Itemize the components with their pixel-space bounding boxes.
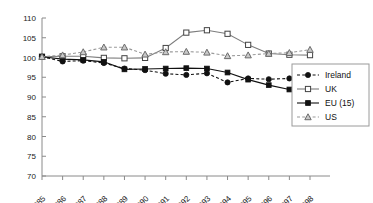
data-point-marker <box>163 66 168 71</box>
data-point-marker <box>204 28 209 33</box>
data-point-marker <box>225 80 230 85</box>
data-point-marker <box>305 72 310 77</box>
data-point-marker <box>225 31 230 36</box>
y-tick-label: 70 <box>27 172 36 181</box>
x-tick-label: 1994 <box>214 194 233 203</box>
y-tick-label: 80 <box>27 133 36 142</box>
y-axis-tick-labels: 707580859095100105110 <box>23 14 37 181</box>
x-tick-label: 1998 <box>296 194 315 203</box>
data-point-marker <box>287 87 292 92</box>
data-point-marker <box>225 70 230 75</box>
x-tick-label: 1997 <box>276 194 295 203</box>
data-point-marker <box>184 30 189 35</box>
y-tick-label: 110 <box>23 14 36 23</box>
data-point-marker <box>101 59 106 64</box>
legend-item-label: Ireland <box>325 70 351 80</box>
y-tick-label: 105 <box>23 34 37 43</box>
data-point-marker <box>246 77 251 82</box>
data-point-marker <box>122 67 127 72</box>
data-point-marker <box>183 48 189 54</box>
x-tick-label: 1988 <box>90 194 109 203</box>
x-tick-label: 1993 <box>193 194 212 203</box>
y-tick-label: 100 <box>23 54 37 63</box>
data-point-marker <box>205 66 210 71</box>
data-point-marker <box>81 57 86 62</box>
data-point-marker <box>246 42 251 47</box>
data-point-marker <box>266 77 271 82</box>
data-series-layer <box>39 28 313 97</box>
y-tick-label: 75 <box>27 152 36 161</box>
y-axis-tickmarks <box>42 18 46 176</box>
data-point-marker <box>122 56 127 61</box>
x-tick-label: 1992 <box>173 194 192 203</box>
x-tick-label: 1995 <box>235 194 254 203</box>
x-axis-tick-labels: 1985198619871988198919901991199219931994… <box>28 194 315 203</box>
y-tick-label: 90 <box>27 93 36 102</box>
data-point-marker <box>287 76 292 81</box>
x-tick-label: 1985 <box>28 194 47 203</box>
data-point-marker <box>121 44 127 50</box>
data-point-marker <box>143 67 148 72</box>
data-point-marker <box>224 53 230 59</box>
x-tick-label: 1991 <box>152 194 171 203</box>
legend-item-label: US <box>325 112 337 122</box>
line-chart-svg: 707580859095100105110 198519861987198819… <box>0 0 373 203</box>
x-tick-label: 1987 <box>70 194 89 203</box>
x-tick-label: 1996 <box>255 194 274 203</box>
x-axis-tickmarks <box>42 176 310 180</box>
data-point-marker <box>307 46 313 52</box>
data-point-marker <box>305 86 310 91</box>
data-point-marker <box>266 83 271 88</box>
legend-item-label: EU (15) <box>325 98 354 108</box>
data-point-marker <box>163 71 168 76</box>
data-point-marker <box>184 66 189 71</box>
data-point-marker <box>204 49 210 55</box>
y-tick-label: 95 <box>27 73 36 82</box>
series-eu-15 <box>40 54 313 96</box>
x-tick-label: 1990 <box>132 194 151 203</box>
chart-legend: IrelandUKEU (15)US <box>292 64 369 126</box>
data-point-marker <box>204 71 209 76</box>
data-point-marker <box>307 53 312 58</box>
data-point-marker <box>306 101 311 106</box>
legend-item-label: UK <box>325 84 337 94</box>
data-point-marker <box>184 72 189 77</box>
series-us <box>39 44 313 59</box>
x-tick-label: 1989 <box>111 194 130 203</box>
chart-container: 707580859095100105110 198519861987198819… <box>0 0 373 203</box>
y-tick-label: 85 <box>27 113 36 122</box>
x-tick-label: 1986 <box>49 194 68 203</box>
data-point-marker <box>142 51 148 57</box>
